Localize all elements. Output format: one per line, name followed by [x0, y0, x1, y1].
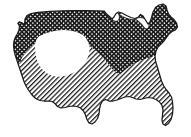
us-thematic-map-figure: Map of the contiguous United States: [0, 0, 191, 137]
map-svg: [0, 0, 191, 137]
